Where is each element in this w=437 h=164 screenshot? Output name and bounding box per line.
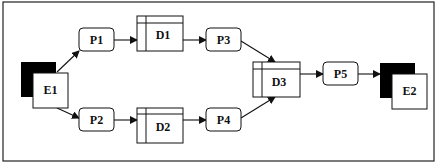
process-p1[interactable]: P1 [79,28,114,51]
process-p2[interactable]: P2 [79,108,114,131]
process-label: P3 [217,33,230,47]
entity-label: E1 [43,83,57,97]
process-label: P4 [217,113,230,127]
datastore-d2[interactable]: D2 [137,108,183,143]
datastore-label: D3 [272,75,287,89]
process-label: P2 [90,113,103,127]
process-p3[interactable]: P3 [206,28,241,51]
diagram-canvas: E1 P1 P2 D1 D2 P3 P4 D3 [0,0,437,164]
datastore-d3[interactable]: D3 [253,62,300,97]
datastore-d1[interactable]: D1 [137,16,183,51]
datastore-label: D1 [156,28,171,42]
process-p5[interactable]: P5 [323,62,358,85]
process-label: P1 [90,33,103,47]
entity-label: E2 [402,84,416,98]
process-label: P5 [334,67,347,81]
process-p4[interactable]: P4 [206,108,241,131]
datastore-label: D2 [156,120,171,134]
